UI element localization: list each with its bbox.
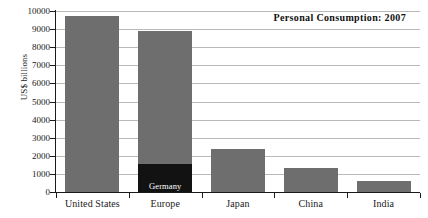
x-tick-mark [420,193,421,198]
x-tick-label: Europe [129,198,202,209]
y-tick-label: 7000 [0,61,50,70]
x-axis-line [55,192,420,193]
y-tick-label: 4000 [0,116,50,125]
bar-segment-main [65,16,119,192]
bar [65,16,119,192]
y-tick-label: 8000 [0,43,50,52]
bar [284,168,338,192]
y-tick-label: 5000 [0,98,50,107]
bar-segment-main [211,149,265,192]
y-tick-label: 9000 [0,25,50,34]
x-tick-label: Japan [202,198,275,209]
x-tick-label: United States [56,198,129,209]
y-tick-label: 1000 [0,170,50,179]
x-tick-label: China [274,198,347,209]
y-tick-label: 0 [0,188,50,197]
bar-chart: US$ billions 100009000800070006000500040… [0,0,428,218]
x-tick-label: India [347,198,420,209]
bar: Germany [138,31,192,192]
chart-title: Personal Consumption: 2007 [274,12,406,23]
bar [211,149,265,192]
bar-segment-main [284,168,338,192]
plot-area: Germany [56,11,420,192]
bar-segment-germany: Germany [138,164,192,192]
bar-segment-main [357,181,411,192]
y-tick-label: 3000 [0,134,50,143]
y-tick-label: 6000 [0,79,50,88]
bar [357,181,411,192]
bar-segment-label: Germany [149,181,181,192]
y-tick-label: 10000 [0,7,50,16]
y-tick-label: 2000 [0,152,50,161]
